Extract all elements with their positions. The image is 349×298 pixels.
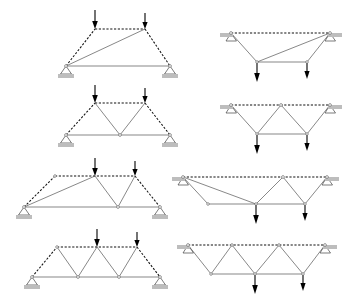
load-arrow — [253, 204, 259, 224]
truss-2-right — [220, 104, 342, 154]
truss-node — [302, 273, 305, 276]
truss-figure — [0, 0, 349, 298]
web-diagonal — [211, 245, 232, 274]
truss-node — [231, 244, 234, 247]
truss-node — [230, 104, 233, 107]
web-diagonal — [57, 247, 78, 277]
truss-node — [280, 104, 283, 107]
left-end-post — [66, 29, 95, 66]
load-arrow — [134, 232, 139, 247]
truss-node — [119, 134, 122, 137]
load-arrow — [92, 85, 98, 103]
truss-node — [23, 206, 26, 209]
truss-node — [255, 203, 258, 206]
web-diagonal — [95, 103, 120, 135]
load-arrow — [132, 161, 137, 176]
right-end-post — [145, 103, 170, 135]
web-diagonal — [257, 33, 330, 62]
load-arrow — [304, 134, 309, 151]
support-roller — [162, 135, 178, 147]
truss-node — [159, 206, 162, 209]
web-diagonal — [78, 247, 97, 277]
truss-4-left — [24, 229, 168, 289]
load-arrow — [92, 158, 98, 176]
truss-node — [118, 276, 121, 279]
web-diagonal — [24, 176, 95, 207]
right-end-post — [305, 177, 327, 204]
truss-node — [159, 276, 162, 279]
truss-node — [254, 273, 257, 276]
right-end-post — [307, 105, 330, 134]
load-arrow — [300, 274, 305, 291]
right-end-post — [135, 176, 160, 207]
web-diagonal — [255, 245, 279, 274]
web-diagonal — [283, 177, 305, 204]
web-diagonal — [232, 245, 255, 274]
truss-node — [77, 276, 80, 279]
truss-node — [65, 134, 68, 137]
truss-node — [256, 61, 259, 64]
support-roller — [162, 66, 178, 78]
right-end-post — [145, 29, 170, 66]
truss-node — [210, 273, 213, 276]
support-pin — [220, 105, 237, 113]
truss-node — [65, 65, 68, 68]
web-diagonal — [183, 177, 256, 204]
load-arrow — [94, 229, 100, 247]
load-arrow — [142, 13, 147, 29]
load-arrow — [92, 10, 98, 29]
truss-node — [304, 203, 307, 206]
truss-node — [278, 244, 281, 247]
web-diagonal — [257, 105, 281, 134]
truss-node — [230, 32, 233, 35]
web-diagonal — [279, 245, 303, 274]
support-roller — [325, 105, 342, 113]
truss-node — [117, 206, 120, 209]
truss-node — [256, 133, 259, 136]
load-arrow — [254, 134, 260, 154]
left-end-post — [66, 103, 95, 135]
truss-2-left — [58, 85, 178, 147]
truss-node — [324, 244, 327, 247]
left-end-post — [24, 176, 55, 207]
load-arrow — [252, 274, 258, 294]
web-diagonal — [118, 176, 135, 207]
support-roller — [322, 177, 339, 185]
load-arrow — [142, 88, 147, 103]
support-pin — [220, 33, 237, 41]
support-roller — [152, 207, 168, 219]
left-end-post — [183, 177, 208, 204]
left-end-post — [188, 245, 211, 274]
truss-node — [329, 32, 332, 35]
truss-1-right — [220, 32, 342, 82]
web-diagonal — [97, 247, 119, 277]
web-diagonal — [281, 105, 307, 134]
right-end-post — [303, 245, 325, 274]
truss-node — [282, 176, 285, 179]
truss-node — [306, 61, 309, 64]
truss-node — [306, 133, 309, 136]
support-roller — [152, 277, 168, 289]
support-roller — [320, 245, 337, 253]
right-end-post — [137, 247, 160, 277]
load-arrow — [304, 62, 309, 79]
truss-3-right — [172, 176, 339, 224]
truss-node — [207, 203, 210, 206]
truss-node — [31, 276, 34, 279]
truss-node — [169, 65, 172, 68]
support-pin — [24, 277, 40, 289]
truss-node — [169, 134, 172, 137]
left-end-post — [231, 33, 257, 62]
truss-node — [187, 244, 190, 247]
left-end-post — [231, 105, 257, 134]
web-diagonal — [119, 247, 137, 277]
load-arrow — [302, 204, 307, 221]
load-arrow — [254, 62, 260, 82]
truss-node — [329, 104, 332, 107]
truss-diagram-canvas — [0, 0, 349, 298]
truss-1-left — [58, 10, 178, 78]
truss-4-right — [177, 244, 337, 294]
web-diagonal — [66, 29, 145, 66]
truss-node — [326, 176, 329, 179]
web-diagonal — [120, 103, 145, 135]
